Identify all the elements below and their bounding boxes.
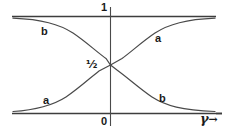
curve-label-b-lower-right: b bbox=[159, 93, 166, 104]
y-axis-tick-zero: 0 bbox=[101, 116, 107, 127]
gamma-glyph: γ bbox=[200, 111, 209, 126]
x-axis-label-gamma: γ→ bbox=[200, 112, 218, 125]
curve-label-b-upper-left: b bbox=[41, 26, 48, 37]
curve-label-a-upper-right: a bbox=[155, 33, 161, 44]
arrow-right-icon: → bbox=[209, 113, 218, 126]
curve-label-a-lower-left: a bbox=[43, 95, 49, 106]
sigmoid-crossing-diagram: 1 0 ½ b a a b γ→ bbox=[0, 0, 229, 133]
plot-canvas bbox=[0, 0, 229, 133]
y-axis-tick-half: ½ bbox=[86, 59, 97, 70]
y-axis-tick-one: 1 bbox=[101, 2, 107, 13]
